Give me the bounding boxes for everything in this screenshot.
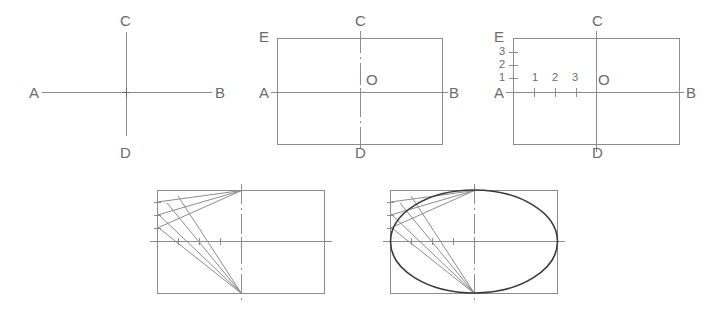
figure-2-rectangle (271, 31, 448, 152)
label-a-fig3: A (494, 85, 504, 100)
ray-d-through-ao-1 (178, 196, 242, 294)
label-b-fig3: B (686, 85, 696, 100)
ray-c-to-ae-2 (158, 191, 242, 216)
ray-d-through-ao-3 (158, 214, 242, 294)
ray-d-through-ao-2 (167, 203, 242, 294)
figure-5-completed-ellipse (383, 184, 565, 300)
division-label-ao-2: 2 (552, 72, 558, 83)
label-c-fig3: C (592, 13, 603, 28)
figure-1-axes (42, 32, 212, 136)
label-b-fig1: B (215, 85, 225, 100)
label-d-fig3: D (592, 145, 603, 160)
label-a-fig2: A (259, 85, 269, 100)
label-o-fig2: O (366, 72, 378, 87)
label-a-fig1: A (29, 85, 39, 100)
label-o-fig3: O (598, 72, 610, 87)
ray-d-through-ao-1-fig5 (411, 196, 475, 294)
division-label-ae-3: 3 (499, 46, 505, 57)
ray-c-to-ae-2-fig5 (391, 191, 475, 216)
label-e-fig3: E (494, 29, 504, 44)
label-d-fig2: D (355, 145, 366, 160)
ray-d-through-ao-4-fig5 (391, 227, 475, 294)
ray-d-through-ao-3-fig5 (391, 214, 475, 294)
label-e-fig2: E (259, 29, 269, 44)
division-label-ae-2: 2 (499, 59, 505, 70)
division-label-ao-3: 3 (572, 72, 578, 83)
ray-d-through-ao-2-fig5 (400, 203, 475, 294)
division-label-ae-1: 1 (499, 72, 505, 83)
division-label-ao-1: 1 (532, 72, 538, 83)
label-b-fig2: B (449, 85, 459, 100)
figure-3-divisions (506, 31, 684, 152)
label-c-fig2: C (355, 13, 366, 28)
label-d-fig1: D (120, 145, 131, 160)
label-c-fig1: C (120, 13, 131, 28)
figure-4-construction-rays (150, 184, 332, 300)
ray-d-through-ao-4 (158, 227, 242, 294)
